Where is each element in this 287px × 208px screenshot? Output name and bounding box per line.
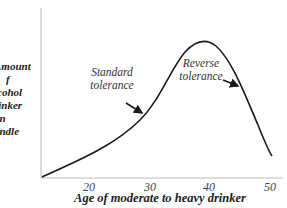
y-label-line: lcohol	[0, 86, 40, 99]
y-label-line: rinker	[0, 99, 40, 112]
y-axis-label: Amount f lcohol rinker an andle	[0, 60, 40, 138]
annotation-line: tolerance	[86, 79, 138, 92]
x-axis-label: Age of moderate to heavy drinker	[40, 191, 280, 206]
standard-tolerance-label: Standard tolerance	[86, 66, 138, 92]
y-label-line: an	[0, 112, 40, 125]
tolerance-curve	[42, 41, 272, 177]
annotation-line: Reverse	[175, 57, 227, 70]
y-label-line: andle	[0, 125, 40, 138]
annotation-line: Standard	[86, 66, 138, 79]
y-label-line: Amount	[0, 60, 40, 73]
chart-plot-area	[0, 0, 287, 208]
standard-tolerance-arrow	[126, 103, 142, 113]
reverse-tolerance-label: Reverse tolerance	[175, 57, 227, 83]
y-label-line: f	[0, 73, 40, 86]
annotation-line: tolerance	[175, 70, 227, 83]
tolerance-chart: Amount f lcohol rinker an andle Standard…	[0, 0, 287, 208]
